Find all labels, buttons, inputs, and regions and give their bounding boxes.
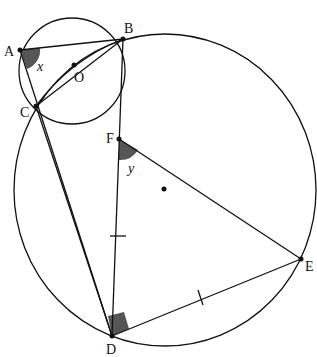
- point-B: [121, 37, 126, 42]
- center-large-circle: [162, 187, 167, 192]
- label-D: D: [106, 342, 116, 357]
- label-angle-x: x: [36, 59, 44, 74]
- geometry-diagram: A B C O F D E x y: [0, 0, 317, 357]
- point-D: [110, 334, 115, 339]
- segment-CD: [36, 106, 112, 336]
- point-O: [72, 63, 77, 68]
- tick-DE: [198, 290, 203, 305]
- point-A: [18, 48, 23, 53]
- point-C: [34, 104, 39, 109]
- label-C: C: [20, 105, 29, 120]
- label-E: E: [305, 259, 314, 274]
- label-A: A: [4, 44, 15, 59]
- label-angle-y: y: [126, 161, 135, 176]
- segment-DE: [112, 259, 301, 336]
- segment-BD: [112, 39, 123, 336]
- segment-AB: [20, 39, 123, 50]
- segment-FE: [119, 139, 301, 259]
- label-O: O: [74, 70, 84, 85]
- label-F: F: [106, 131, 114, 146]
- label-B: B: [124, 21, 133, 36]
- point-E: [299, 257, 304, 262]
- point-F: [117, 137, 122, 142]
